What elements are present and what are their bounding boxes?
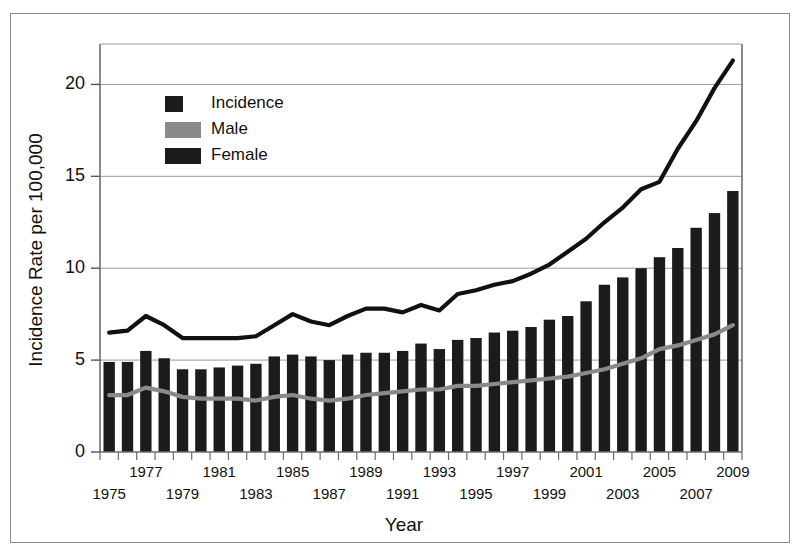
legend-swatch <box>165 148 201 164</box>
bar <box>159 358 170 452</box>
x-tick-label: 2009 <box>716 463 749 480</box>
bar <box>397 351 408 452</box>
bar <box>672 248 683 452</box>
x-tick-label: 1991 <box>386 485 419 502</box>
bar <box>562 316 573 452</box>
bar <box>525 327 536 452</box>
x-axis-tick-labels: 1977198119851989199319972001200520091975… <box>92 463 749 502</box>
y-tick-label: 15 <box>65 165 85 185</box>
bar <box>452 340 463 452</box>
bar <box>177 369 188 452</box>
x-tick-label: 2001 <box>569 463 602 480</box>
x-tick-label: 1989 <box>349 463 382 480</box>
legend-swatch <box>165 122 201 138</box>
x-tick-label: 2005 <box>643 463 676 480</box>
bar <box>342 355 353 452</box>
bar <box>195 369 206 452</box>
x-tick-label: 1979 <box>166 485 199 502</box>
bar <box>434 349 445 452</box>
x-tick-label: 1987 <box>313 485 346 502</box>
bar <box>140 351 151 452</box>
chart-canvas: 05101520 1977198119851989199319972001200… <box>0 0 802 558</box>
x-axis-title: Year <box>385 514 424 535</box>
bar-series-female <box>103 191 738 452</box>
legend-swatch <box>165 96 183 112</box>
bar <box>727 191 738 452</box>
x-axis-ticks <box>100 452 742 460</box>
bar <box>415 344 426 452</box>
legend-label: Incidence <box>211 93 284 112</box>
x-tick-label: 1985 <box>276 463 309 480</box>
x-tick-label: 1995 <box>459 485 492 502</box>
bar <box>507 331 518 452</box>
y-tick-label: 10 <box>65 257 85 277</box>
bar <box>103 362 114 452</box>
legend-label: Female <box>211 145 268 164</box>
bar <box>654 257 665 452</box>
y-axis-title: Incidence Rate per 100,000 <box>25 133 46 366</box>
bar <box>287 355 298 452</box>
x-tick-label: 1999 <box>533 485 566 502</box>
bar <box>470 338 481 452</box>
bar <box>269 356 280 452</box>
bar <box>250 364 261 452</box>
x-tick-label: 1983 <box>239 485 272 502</box>
y-tick-label: 0 <box>75 441 85 461</box>
bar <box>489 333 500 452</box>
bar <box>122 362 133 452</box>
bar <box>232 366 243 452</box>
x-tick-label: 1975 <box>92 485 125 502</box>
x-tick-label: 1993 <box>423 463 456 480</box>
x-tick-label: 1997 <box>496 463 529 480</box>
bar <box>324 360 335 452</box>
chart-figure: 05101520 1977198119851989199319972001200… <box>0 0 802 558</box>
bar <box>379 353 390 452</box>
x-tick-label: 1981 <box>203 463 236 480</box>
y-tick-label: 5 <box>75 349 85 369</box>
y-axis-tick-labels: 05101520 <box>65 73 100 461</box>
bar <box>580 301 591 452</box>
chart-legend: IncidenceMaleFemale <box>165 93 284 164</box>
bar <box>214 367 225 452</box>
bar <box>544 320 555 452</box>
y-tick-label: 20 <box>65 73 85 93</box>
x-tick-label: 2003 <box>606 485 639 502</box>
bar <box>360 353 371 452</box>
x-tick-label: 1977 <box>129 463 162 480</box>
bar <box>305 356 316 452</box>
legend-label: Male <box>211 119 248 138</box>
x-tick-label: 2007 <box>679 485 712 502</box>
